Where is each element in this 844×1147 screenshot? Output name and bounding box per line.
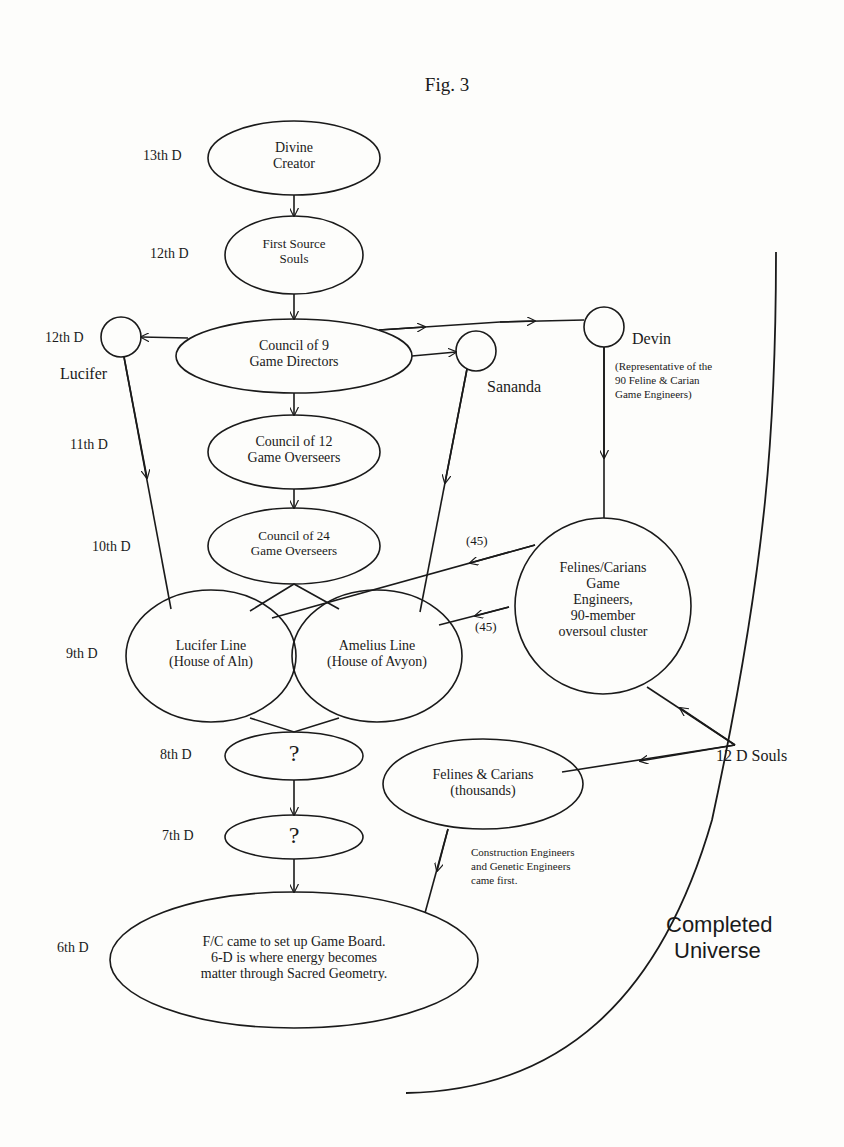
being-devin: Devin bbox=[632, 330, 671, 348]
dimension-label-12-lucifer: 12th D bbox=[45, 330, 84, 346]
node-line: Amelius Line bbox=[327, 638, 427, 654]
completed-universe-label: Completed Universe bbox=[666, 912, 772, 965]
node-line: Game Directors bbox=[249, 354, 338, 370]
dimension-label-7: 7th D bbox=[162, 828, 194, 844]
dimension-label-13: 13th D bbox=[143, 148, 182, 164]
being-lucifer: Lucifer bbox=[60, 365, 107, 383]
node-line: Souls bbox=[262, 252, 325, 267]
being-sananda: Sananda bbox=[487, 378, 541, 396]
node-line: Council of 24 bbox=[251, 529, 337, 544]
node-council-of-24: Council of 24 Game Overseers bbox=[251, 529, 337, 559]
engineers-note: Construction Engineers and Genetic Engin… bbox=[471, 846, 575, 887]
node-line: Felines & Carians bbox=[432, 767, 533, 783]
node-line: First Source bbox=[262, 237, 325, 252]
node-unknown-7th: ? bbox=[289, 822, 300, 850]
node-line: Game bbox=[558, 576, 647, 592]
node-line: 6-D is where energy becomes bbox=[201, 950, 387, 966]
node-line: matter through Sacred Geometry. bbox=[201, 966, 387, 982]
note-line: came first. bbox=[471, 874, 575, 888]
sananda-circle bbox=[456, 331, 496, 371]
region-line: Completed bbox=[666, 912, 772, 938]
note-line: (Representative of the bbox=[615, 360, 712, 374]
dimension-label-12: 12th D bbox=[150, 246, 189, 262]
devin-note: (Representative of the 90 Feline & Caria… bbox=[615, 360, 712, 401]
node-felines-carians-cluster: Felines/Carians Game Engineers, 90-membe… bbox=[558, 560, 647, 640]
dimension-label-10: 10th D bbox=[92, 539, 131, 555]
node-line: oversoul cluster bbox=[558, 624, 647, 640]
dimension-label-9: 9th D bbox=[66, 646, 98, 662]
node-game-board: F/C came to set up Game Board. 6-D is wh… bbox=[201, 934, 387, 982]
completed-universe-boundary bbox=[406, 252, 776, 1093]
node-amelius-line: Amelius Line (House of Avyon) bbox=[327, 638, 427, 670]
edge-label-12d-souls: 12 D Souls bbox=[716, 747, 787, 765]
note-line: Game Engineers) bbox=[615, 388, 712, 402]
node-lucifer-line: Lucifer Line (House of Aln) bbox=[169, 638, 253, 670]
node-line: Divine bbox=[273, 140, 315, 156]
note-line: and Genetic Engineers bbox=[471, 860, 575, 874]
node-first-source-souls: First Source Souls bbox=[262, 237, 325, 267]
figure-title: Fig. 3 bbox=[425, 74, 469, 96]
note-line: Construction Engineers bbox=[471, 846, 575, 860]
node-line: Council of 12 bbox=[248, 434, 341, 450]
edge-label-lower-45: (45) bbox=[475, 620, 497, 635]
dimension-label-8: 8th D bbox=[160, 747, 192, 763]
region-line: Universe bbox=[666, 938, 772, 964]
note-line: 90 Feline & Carian bbox=[615, 374, 712, 388]
node-line: F/C came to set up Game Board. bbox=[201, 934, 387, 950]
devin-circle bbox=[584, 307, 624, 347]
dimension-label-11: 11th D bbox=[70, 437, 108, 453]
diagram-lines bbox=[0, 0, 844, 1147]
edge-label-upper-45: (45) bbox=[466, 534, 488, 549]
node-felines-carians-thousands: Felines & Carians (thousands) bbox=[432, 767, 533, 799]
dimension-label-6: 6th D bbox=[57, 940, 89, 956]
node-line: Lucifer Line bbox=[169, 638, 253, 654]
node-council-of-9: Council of 9 Game Directors bbox=[249, 338, 338, 370]
node-line: Game Overseers bbox=[251, 544, 337, 559]
node-line: (House of Avyon) bbox=[327, 654, 427, 670]
node-line: Council of 9 bbox=[249, 338, 338, 354]
node-line: (thousands) bbox=[432, 783, 533, 799]
node-unknown-8th: ? bbox=[289, 740, 300, 768]
node-line: Felines/Carians bbox=[558, 560, 647, 576]
node-line: (House of Aln) bbox=[169, 654, 253, 670]
node-line: Creator bbox=[273, 156, 315, 172]
node-line: Game Overseers bbox=[248, 450, 341, 466]
node-line: Engineers, bbox=[558, 592, 647, 608]
node-council-of-12: Council of 12 Game Overseers bbox=[248, 434, 341, 466]
node-line: 90-member bbox=[558, 608, 647, 624]
lucifer-circle bbox=[101, 317, 141, 357]
node-divine-creator: Divine Creator bbox=[273, 140, 315, 172]
